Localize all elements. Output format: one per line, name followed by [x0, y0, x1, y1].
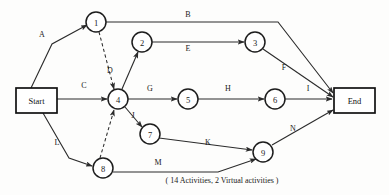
- event-node-2: 2: [132, 32, 152, 52]
- terminal-label-end: End: [348, 96, 362, 106]
- activity-label-L: L: [55, 138, 60, 147]
- terminal-end: End: [334, 88, 375, 113]
- event-node-4: 4: [108, 89, 128, 109]
- event-node-label-2: 2: [140, 38, 144, 48]
- event-node-label-5: 5: [186, 95, 190, 105]
- activity-edge-L: [43, 113, 92, 166]
- activity-label-N: N: [290, 124, 296, 133]
- activity-label-I: I: [307, 84, 310, 93]
- activity-label-C: C: [81, 81, 86, 90]
- activity-label-E: E: [186, 44, 191, 53]
- event-node-label-9: 9: [261, 148, 265, 158]
- event-node-6: 6: [265, 89, 285, 109]
- diagram-caption: ( 14 Activities, 2 Virtual activities ): [166, 176, 279, 185]
- event-node-9: 9: [253, 142, 273, 162]
- activity-label-B: B: [185, 10, 190, 19]
- activity-label-M: M: [154, 158, 161, 167]
- activity-label-A: A: [39, 30, 45, 39]
- event-node-3: 3: [245, 32, 265, 52]
- event-node-8: 8: [93, 158, 113, 178]
- event-node-label-8: 8: [101, 164, 105, 174]
- network-diagram: 123456789 StartEnd ABCDEFGHIJKLMN ( 14 A…: [0, 0, 389, 195]
- activity-edge-D: [122, 52, 138, 89]
- virtual-activity-edge-V2: [100, 110, 114, 158]
- event-node-7: 7: [140, 124, 160, 144]
- nodes-layer: 123456789: [86, 12, 285, 178]
- terminal-start: Start: [16, 88, 57, 113]
- activity-label-J: J: [131, 111, 134, 120]
- event-node-label-1: 1: [94, 18, 98, 28]
- terminal-label-start: Start: [28, 96, 45, 106]
- event-node-label-7: 7: [148, 130, 152, 140]
- event-node-label-3: 3: [253, 38, 257, 48]
- virtual-activity-edge-V1: [99, 32, 114, 89]
- network-diagram-canvas: 123456789 StartEnd ABCDEFGHIJKLMN ( 14 A…: [0, 0, 389, 195]
- event-node-1: 1: [86, 12, 106, 32]
- activity-label-G: G: [147, 84, 153, 93]
- activity-label-D: D: [107, 66, 113, 75]
- activity-label-H: H: [225, 84, 231, 93]
- activity-edge-M: [113, 159, 256, 172]
- activity-edge-N: [272, 110, 333, 145]
- activity-label-F: F: [282, 63, 287, 72]
- edge-labels-layer: ABCDEFGHIJKLMN: [39, 10, 310, 167]
- event-node-label-6: 6: [273, 95, 277, 105]
- event-node-5: 5: [178, 89, 198, 109]
- activity-label-K: K: [205, 138, 211, 147]
